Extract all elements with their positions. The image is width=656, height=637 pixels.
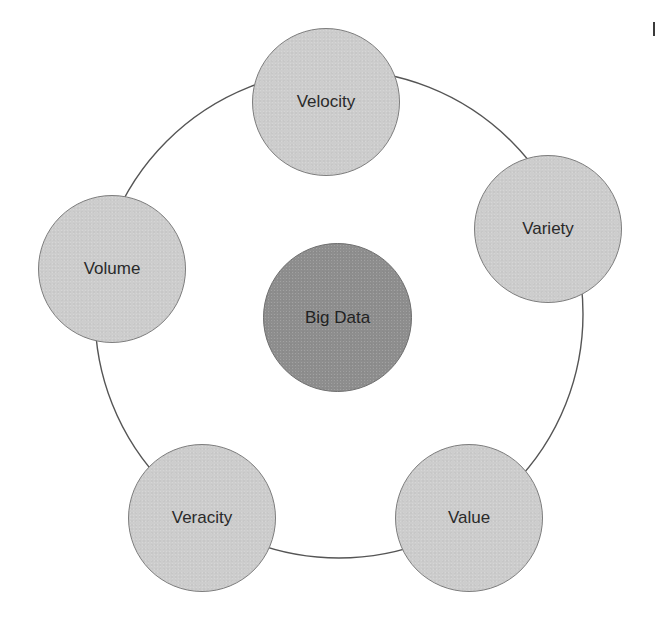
big-data-5v-diagram: Velocity Variety Value Veracity Volume B… <box>0 0 656 637</box>
node-value: Value <box>395 444 543 592</box>
node-variety-label: Variety <box>522 219 574 239</box>
node-volume: Volume <box>38 195 186 343</box>
node-value-label: Value <box>448 508 490 528</box>
node-variety: Variety <box>474 155 622 303</box>
node-big-data-label: Big Data <box>305 308 370 328</box>
node-veracity: Veracity <box>128 444 276 592</box>
node-veracity-label: Veracity <box>172 508 232 528</box>
node-velocity: Velocity <box>252 28 400 176</box>
node-volume-label: Volume <box>84 259 141 279</box>
node-big-data-center: Big Data <box>263 243 412 392</box>
cropped-glyph-fragment <box>653 22 655 36</box>
node-velocity-label: Velocity <box>297 92 356 112</box>
